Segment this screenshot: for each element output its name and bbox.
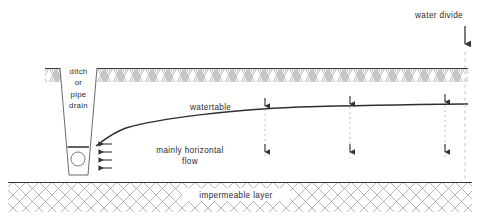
water-divide-marker: water divide xyxy=(414,11,465,212)
watertable-curve: watertable xyxy=(96,103,468,146)
watertable-label: watertable xyxy=(189,103,231,112)
topsoil-band-right xyxy=(97,68,468,82)
topsoil-layer xyxy=(45,68,468,82)
flow-caption-line1: mainly horizontal xyxy=(156,146,223,155)
impermeable-label: impermeable layer xyxy=(199,191,272,200)
ditch-label-line4: drain xyxy=(69,101,88,110)
watertable-line xyxy=(96,104,468,146)
ditch-label-line1: ditch xyxy=(70,67,88,76)
drain-pipe-icon xyxy=(71,152,85,166)
ditch-label-line2: or xyxy=(75,78,83,87)
ditch-drain: ditch or pipe drain xyxy=(60,67,97,176)
ditch-label-line3: pipe xyxy=(71,90,87,99)
cross-section-diagram: ditch or pipe drain watertable mainly ho… xyxy=(0,0,480,219)
flow-caption: mainly horizontal flow xyxy=(156,146,223,166)
percolation-markers xyxy=(265,94,445,158)
horizontal-flow-arrows xyxy=(99,144,112,168)
water-divide-label: water divide xyxy=(414,11,463,20)
diagram-canvas: ditch or pipe drain watertable mainly ho… xyxy=(0,0,480,219)
flow-caption-line2: flow xyxy=(182,157,198,166)
impermeable-layer: impermeable layer xyxy=(8,183,472,213)
